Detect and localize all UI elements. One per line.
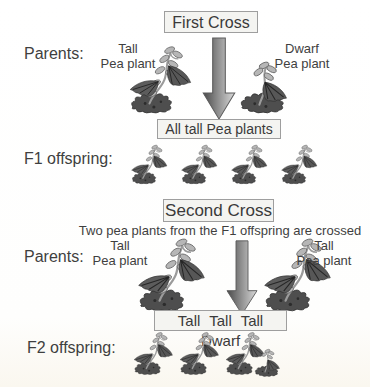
f1-offspring-plant — [276, 142, 322, 186]
f2-offspring-plant-tall — [174, 330, 224, 376]
right-parent-line1: Tall — [292, 238, 356, 253]
right-parent-line2: Pea plant — [292, 253, 356, 268]
tall-pea-plant-illustration — [126, 236, 216, 312]
first-cross-parents-label: Parents: — [24, 45, 84, 63]
second-cross-parents-label: Parents: — [24, 248, 84, 266]
pea-plant-cross-diagram: First Cross Parents: Tall Pea plant Dwar… — [0, 0, 370, 387]
second-cross-right-parent-label: Tall Pea plant — [292, 238, 356, 268]
f1-offspring-plant — [176, 142, 222, 186]
f1-offspring-plant — [226, 142, 272, 186]
tall-pea-plant-illustration — [118, 44, 202, 114]
first-cross-result-box: All tall Pea plants — [157, 119, 281, 139]
first-cross-right-parent-label: Dwarf Pea plant — [260, 41, 344, 71]
right-parent-line2: Pea plant — [260, 56, 344, 71]
f1-offspring-label: F1 offspring: — [24, 150, 113, 168]
second-cross-title: Second Cross — [163, 199, 274, 222]
second-cross-result-box: Tall Tall Tall Dwarf — [154, 310, 287, 331]
f2-offspring-plant-dwarf — [250, 347, 286, 377]
f1-offspring-plant — [126, 142, 172, 186]
f2-offspring-label: F2 offspring: — [27, 339, 116, 357]
f2-offspring-plant-tall — [128, 330, 178, 376]
first-cross-title: First Cross — [164, 11, 258, 33]
right-parent-line1: Dwarf — [260, 41, 344, 56]
